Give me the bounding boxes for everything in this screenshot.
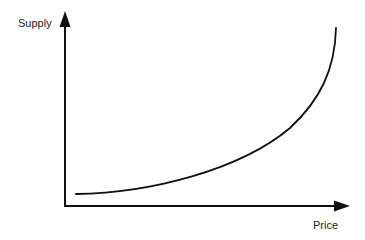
supply-curve-diagram: [0, 0, 365, 240]
y-axis-arrow-icon: [60, 11, 71, 27]
x-axis-label: Price: [313, 219, 338, 231]
supply-curve: [76, 28, 336, 194]
y-axis-label: Supply: [18, 17, 52, 29]
x-axis-arrow-icon: [334, 201, 350, 212]
